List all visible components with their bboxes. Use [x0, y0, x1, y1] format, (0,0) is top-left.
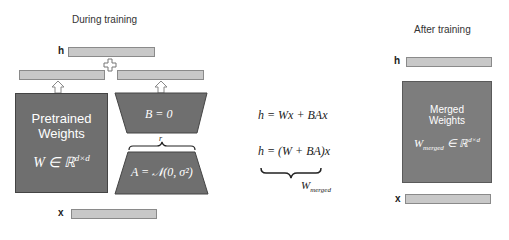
w-merged-main: W: [301, 179, 310, 191]
rank-brace-icon: [129, 142, 195, 150]
b-matrix-formula: B = 0: [145, 107, 172, 122]
after-x-input-label: x: [395, 193, 401, 204]
pretrained-formula-main: W ∈ ℝ: [33, 155, 75, 170]
merged-weights-box: Merged Weights Wmerged ∈ ℝd×d: [402, 81, 492, 183]
merged-formula-sub: merged: [423, 144, 444, 152]
merged-formula-rest: ∈ ℝ: [444, 137, 469, 149]
plus-icon: [104, 59, 116, 71]
up-arrow-icon-right: [155, 81, 167, 93]
up-arrow-icon-left: [52, 81, 64, 93]
x-input-vector: [71, 209, 157, 219]
pretrained-formula-sup: d×d: [75, 153, 90, 163]
rank-label: r: [159, 134, 162, 143]
after-x-input-vector: [405, 194, 491, 204]
merged-underbrace-icon: [261, 168, 321, 178]
w-merged-sub: merged: [310, 186, 331, 194]
after-training-title: After training: [414, 24, 471, 35]
merged-formula-sup: d×d: [468, 136, 480, 144]
a-matrix-formula: A = 𝒩(0, σ²): [131, 165, 193, 180]
merged-line1: Merged: [403, 104, 491, 115]
pretrained-formula: W ∈ ℝd×d: [16, 153, 107, 171]
pretrained-weights-box: Pretrained Weights W ∈ ℝd×d: [15, 93, 108, 193]
merged-formula-main: W: [414, 137, 423, 149]
equation-2: h = (W + BA)x: [258, 144, 330, 159]
merged-line2: Weights: [403, 115, 491, 126]
pretrained-line2: Weights: [16, 126, 107, 141]
w-merged-label: Wmerged: [301, 179, 331, 194]
after-h-output-label: h: [394, 55, 400, 66]
x-input-label: x: [58, 207, 64, 218]
merged-formula: Wmerged ∈ ℝd×d: [403, 136, 491, 152]
pretrained-line1: Pretrained: [16, 111, 107, 126]
equation-1: h = Wx + BAx: [258, 108, 328, 123]
after-h-output-vector: [406, 57, 492, 67]
